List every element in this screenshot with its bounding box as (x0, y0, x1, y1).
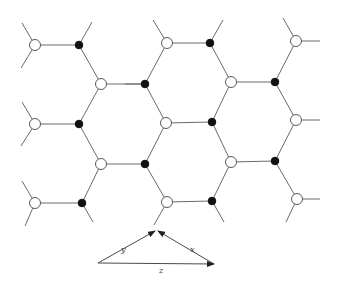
filled-atom-dot-icon (75, 41, 83, 49)
open-atom-circle-icon (161, 118, 172, 129)
filled-atom-dot-icon (208, 118, 216, 126)
bond (212, 162, 231, 201)
bond (145, 123, 166, 164)
bond (275, 120, 296, 161)
bond (212, 82, 231, 122)
honeycomb-lattice-figure: yxz (0, 0, 343, 288)
open-atom-circle-icon (226, 77, 237, 88)
vector-triangle: yxz (98, 231, 214, 275)
open-atom-circle-icon (30, 40, 41, 51)
bond (166, 122, 212, 123)
filled-atom-dot-icon (141, 160, 149, 168)
filled-atom-dot-icon (208, 197, 216, 205)
filled-atom-dot-icon (75, 120, 83, 128)
bond (145, 84, 166, 123)
bond (79, 45, 101, 84)
open-atom-circle-icon (30, 119, 41, 130)
vector-arrow-z (98, 263, 214, 264)
open-atom-circle-icon (291, 36, 302, 47)
bond (145, 164, 167, 202)
open-atom-circle-icon (226, 157, 237, 168)
bond (275, 82, 296, 120)
vector-arrow-x (158, 231, 214, 264)
filled-atom-dot-icon (141, 80, 149, 88)
filled-atom-dot-icon (271, 157, 279, 165)
open-atom-circle-icon (162, 38, 173, 49)
open-atom-circle-icon (291, 115, 302, 126)
filled-atom-dot-icon (206, 39, 214, 47)
vector-label-z: z (158, 266, 164, 275)
open-atom-circle-icon (162, 197, 173, 208)
vector-label-y: y (120, 245, 126, 254)
bond (79, 84, 101, 124)
bond (275, 161, 297, 199)
bond (231, 161, 275, 162)
bond (82, 164, 101, 203)
open-atom-circle-icon (292, 194, 303, 205)
filled-atom-dot-icon (271, 78, 279, 86)
open-atoms (30, 36, 303, 209)
vector-arrow-y (98, 231, 155, 263)
lattice-diagram: yxz (0, 0, 343, 288)
bond (275, 41, 296, 82)
open-atom-circle-icon (30, 198, 41, 209)
open-atom-circle-icon (96, 79, 107, 90)
bond (79, 124, 101, 164)
bond (145, 43, 167, 84)
open-atom-circle-icon (96, 159, 107, 170)
bond (210, 43, 231, 82)
bond (212, 122, 231, 162)
bond (167, 201, 212, 202)
vector-label-x: x (190, 245, 195, 254)
filled-atom-dot-icon (78, 199, 86, 207)
